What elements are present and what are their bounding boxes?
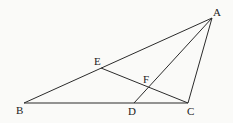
label-b: B bbox=[16, 104, 23, 116]
label-a: A bbox=[213, 6, 221, 18]
label-d: D bbox=[128, 105, 136, 117]
label-c: C bbox=[187, 105, 194, 117]
segment-ab bbox=[24, 18, 212, 103]
geometry-diagram: A B C D E F bbox=[0, 0, 233, 123]
labels-group: A B C D E F bbox=[16, 6, 221, 117]
label-e: E bbox=[94, 55, 101, 67]
diagram-svg: A B C D E F bbox=[0, 0, 233, 123]
label-f: F bbox=[143, 73, 149, 85]
segments-group bbox=[24, 18, 212, 103]
